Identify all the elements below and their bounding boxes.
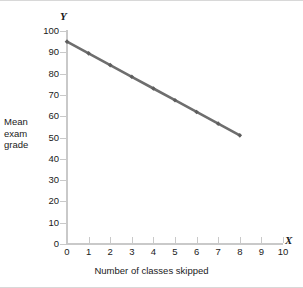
data-series-layer (0, 1, 303, 288)
chart-figure: Y X Mean exam grade Number of classes sk… (0, 0, 303, 288)
